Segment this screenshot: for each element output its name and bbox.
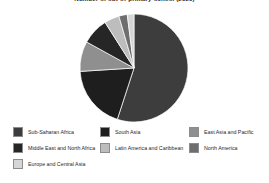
pie-slice-group (80, 14, 188, 122)
chart-legend: Sub-Saharan AfricaSouth AsiaEast Asia an… (0, 124, 269, 183)
legend-item-north-america[interactable]: North America (189, 140, 238, 156)
legend-item-latin-america-and-caribbean[interactable]: Latin America and Caribbean (100, 140, 183, 156)
legend-label-south-asia: South Asia (115, 128, 140, 136)
legend-swatch-south-asia (100, 127, 110, 137)
legend-item-east-asia-and-pacific[interactable]: East Asia and Pacific (189, 124, 253, 140)
legend-item-south-asia[interactable]: South Asia (100, 124, 140, 140)
legend-swatch-north-america (189, 143, 199, 153)
legend-label-latin-america-and-caribbean: Latin America and Caribbean (115, 144, 183, 152)
legend-label-europe-and-central-asia: Europe and Central Asia (28, 160, 85, 168)
chart-title: Number of out-of-primary-school (2020) (0, 0, 269, 3)
legend-swatch-latin-america-and-caribbean (100, 143, 110, 153)
legend-label-sub-saharan-africa: Sub-Saharan Africa (28, 128, 74, 136)
legend-item-middle-east-and-north-africa[interactable]: Middle East and North Africa (13, 140, 95, 156)
legend-item-sub-saharan-africa[interactable]: Sub-Saharan Africa (13, 124, 74, 140)
legend-row: Middle East and North AfricaLatin Americ… (0, 140, 269, 156)
legend-label-north-america: North America (204, 144, 238, 152)
legend-row: Europe and Central Asia (0, 156, 269, 172)
legend-label-middle-east-and-north-africa: Middle East and North Africa (28, 144, 95, 152)
legend-swatch-sub-saharan-africa (13, 127, 23, 137)
pie-chart (79, 13, 189, 123)
legend-row: Sub-Saharan AfricaSouth AsiaEast Asia an… (0, 124, 269, 140)
legend-swatch-middle-east-and-north-africa (13, 143, 23, 153)
legend-swatch-europe-and-central-asia (13, 159, 23, 169)
pie-chart-svg (79, 13, 189, 123)
legend-swatch-east-asia-and-pacific (189, 127, 199, 137)
legend-label-east-asia-and-pacific: East Asia and Pacific (204, 128, 253, 136)
legend-item-europe-and-central-asia[interactable]: Europe and Central Asia (13, 156, 85, 172)
